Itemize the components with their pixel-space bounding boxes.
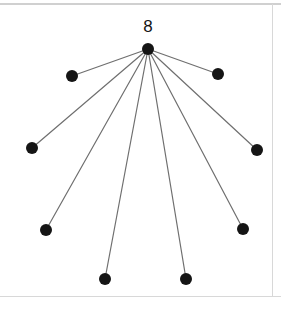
graph-node-leaf: [26, 142, 38, 154]
center-node-label: 8: [143, 17, 152, 36]
graph-node-leaf: [180, 273, 192, 285]
graph-edge: [105, 49, 148, 279]
graph-node-center: [142, 43, 154, 55]
graph-edge: [148, 49, 218, 74]
graph-figure: 8: [0, 0, 281, 309]
graph-labels: 8: [143, 17, 152, 36]
graph-node-leaf: [66, 70, 78, 82]
graph-edge: [32, 49, 148, 148]
figure-frame: [0, 4, 281, 296]
graph-edge: [148, 49, 243, 229]
graph-edge: [46, 49, 148, 230]
graph-node-leaf: [237, 223, 249, 235]
graph-node-leaf: [212, 68, 224, 80]
star-graph-canvas: 8: [0, 0, 281, 309]
graph-node-leaf: [251, 144, 263, 156]
graph-node-leaf: [40, 224, 52, 236]
graph-edge: [148, 49, 186, 279]
graph-edges: [32, 49, 257, 279]
graph-nodes: [26, 43, 263, 285]
graph-node-leaf: [99, 273, 111, 285]
graph-edge: [148, 49, 257, 150]
graph-edge: [72, 49, 148, 76]
